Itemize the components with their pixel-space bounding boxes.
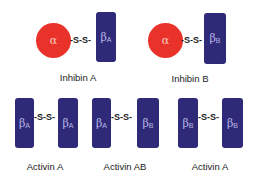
beta-subscript: B [216,37,221,44]
disulfide-bond: -S-S- [181,35,202,45]
complex-label: Activin A [192,161,228,172]
disulfide-bond: -S-S- [111,112,132,122]
alpha-subunit-circle: α [148,23,183,58]
beta-subscript: A [25,122,30,129]
beta-a-subunit-rect: βA [15,98,34,148]
complex-label: Inhibin A [60,72,96,83]
beta-b-subunit-rect: βB [137,98,159,148]
beta-b-subunit-rect: βB [222,98,243,148]
beta-b-subunit-rect: βB [204,13,226,64]
beta-subscript: B [233,122,238,129]
complex-label: Activin A [27,161,63,172]
beta-subscript: A [102,122,107,129]
beta-subscript: B [189,122,194,129]
alpha-symbol: α [50,34,57,47]
beta-a-subunit-rect: βA [96,12,116,62]
disulfide-bond: -S-S- [70,35,91,45]
beta-a-subunit-rect: βA [92,98,111,148]
alpha-symbol: α [162,34,169,47]
alpha-subunit-circle: α [36,23,71,58]
beta-subscript: B [149,122,154,129]
beta-a-subunit-rect: βA [58,98,78,148]
beta-b-subunit-rect: βB [178,98,198,148]
beta-subscript: A [69,122,74,129]
disulfide-bond: -S-S- [34,112,55,122]
beta-subscript: A [107,36,112,43]
complex-label: Activin AB [104,161,147,172]
complex-label: Inhibin B [172,73,209,84]
disulfide-bond: -S-S- [198,112,219,122]
